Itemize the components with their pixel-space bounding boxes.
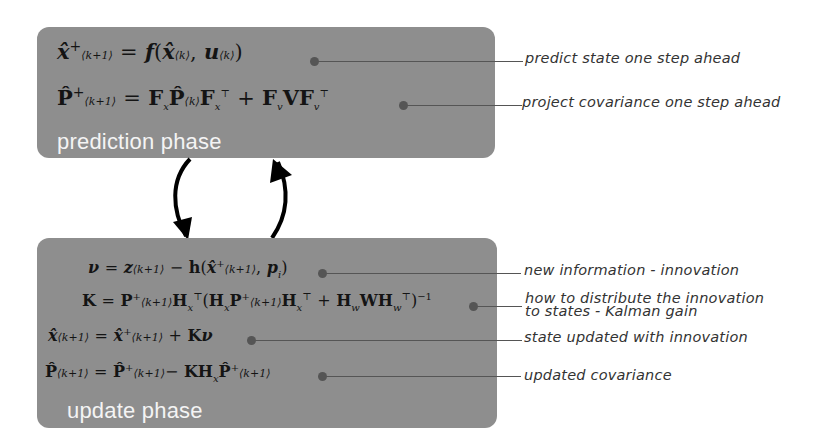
annotation-leader [252, 340, 522, 341]
equation-state-update: x̂⟨k+1⟩ = x̂+⟨k+1⟩ + Kν [48, 326, 213, 345]
arrow-head-up [270, 159, 292, 183]
annotation-leader [474, 306, 522, 307]
annotation-state-update: state updated with innovation [524, 329, 748, 345]
arrow-head-down [173, 217, 192, 240]
annotation-covariance-update: updated covariance [524, 367, 672, 383]
annotation-kalman-gain: how to distribute the innovation to stat… [525, 292, 764, 318]
update-phase-label: update phase [67, 398, 203, 424]
equation-kalman-gain: K = P+⟨k+1⟩Hx⊤(HxP+⟨k+1⟩Hx⊤ + HwWHw⊤)−1 [82, 291, 432, 313]
annotation-kalman-gain-line2: to states - Kalman gain [525, 305, 764, 318]
annotation-leader [323, 376, 521, 377]
equation-innovation: ν = z⟨k+1⟩ − h(x̂+⟨k+1⟩, pi) [88, 258, 287, 280]
equation-covariance-update: P̂⟨k+1⟩ = P̂+⟨k+1⟩− KHxP̂+⟨k+1⟩ [45, 362, 270, 384]
annotation-innovation: new information - innovation [524, 262, 739, 278]
annotation-leader [323, 273, 521, 274]
